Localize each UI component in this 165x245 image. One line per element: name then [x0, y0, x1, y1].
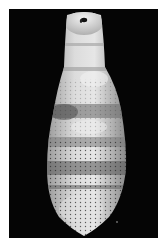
specimen-photo	[9, 9, 158, 238]
specimen-image	[9, 9, 158, 238]
